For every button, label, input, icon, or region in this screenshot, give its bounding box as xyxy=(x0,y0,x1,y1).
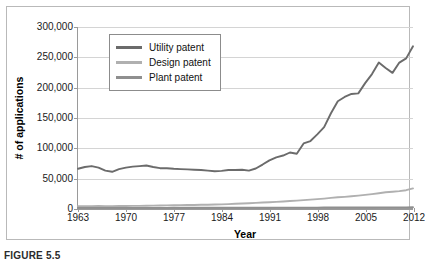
gridline xyxy=(78,209,413,210)
x-axis-tick-label: 1963 xyxy=(67,213,89,223)
y-axis-tick-label: 300,000 xyxy=(37,22,73,32)
legend-line-swatch xyxy=(116,46,142,48)
legend-item-label: Plant patent xyxy=(149,73,202,83)
x-axis-tick-label: 2012 xyxy=(403,213,425,223)
legend-item[interactable]: Plant patent xyxy=(116,70,211,85)
y-axis-tick-label: 100,000 xyxy=(37,143,73,153)
y-axis-tick-label: 50,000 xyxy=(42,174,73,184)
x-axis-tick-label: 1998 xyxy=(307,213,329,223)
y-axis-tick-label: 200,000 xyxy=(37,83,73,93)
legend-line-swatch xyxy=(116,76,142,78)
legend-line-swatch xyxy=(116,61,142,63)
y-axis-tick-label: 150,000 xyxy=(37,113,73,123)
figure-caption: FIGURE 5.5 xyxy=(4,250,60,261)
legend-item-label: Utility patent xyxy=(149,43,204,53)
series-line xyxy=(78,188,413,206)
x-axis-tick-label: 1970 xyxy=(115,213,137,223)
legend-item-label: Design patent xyxy=(149,58,211,68)
legend-item[interactable]: Design patent xyxy=(116,55,211,70)
x-axis-title: Year xyxy=(77,228,413,240)
x-axis-tick-label: 1977 xyxy=(163,213,185,223)
y-axis-tick-label: 250,000 xyxy=(37,52,73,62)
chart-legend: Utility patentDesign patentPlant patent xyxy=(109,34,221,91)
x-axis-tick-label: 1984 xyxy=(211,213,233,223)
figure-frame: # of applications Year 300,000250,000200… xyxy=(6,6,410,240)
series-line xyxy=(78,207,413,208)
y-axis-title: # of applications xyxy=(13,77,25,160)
plot-area: 300,000250,000200,000150,000100,00050,00… xyxy=(77,27,413,209)
legend-item[interactable]: Utility patent xyxy=(116,40,211,55)
x-axis-tick-label: 1991 xyxy=(259,213,281,223)
x-axis-tick-label: 2005 xyxy=(355,213,377,223)
